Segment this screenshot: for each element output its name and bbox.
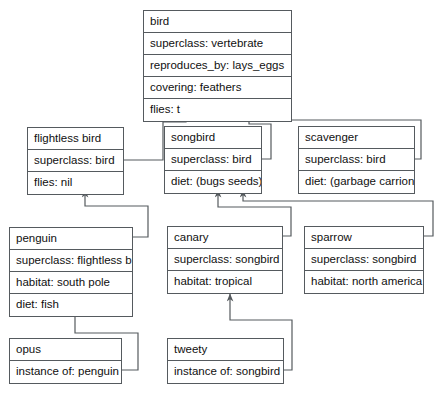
frame-scavenger-slot-diet: diet: (garbage carrion) bbox=[299, 171, 414, 193]
frame-bird[interactable]: bird superclass: vertebrate reproduces_b… bbox=[143, 10, 292, 122]
frame-sparrow[interactable]: sparrow superclass: songbird habitat: no… bbox=[304, 226, 424, 294]
frame-opus-slot-instance-of: instance of: penguin bbox=[10, 361, 121, 383]
frame-scavenger[interactable]: scavenger superclass: bird diet: (garbag… bbox=[298, 126, 415, 194]
frame-flightless-bird-name: flightless bird bbox=[28, 128, 123, 150]
frame-songbird-name: songbird bbox=[165, 127, 261, 149]
frame-sparrow-name: sparrow bbox=[305, 227, 423, 249]
frame-flightless-bird[interactable]: flightless bird superclass: bird flies: … bbox=[27, 127, 124, 195]
frame-songbird-slot-superclass: superclass: bird bbox=[165, 149, 261, 171]
frame-canary[interactable]: canary superclass: songbird habitat: tro… bbox=[167, 226, 283, 294]
frame-canary-slot-superclass: superclass: songbird bbox=[168, 249, 282, 271]
frame-penguin-slot-diet: diet: fish bbox=[10, 294, 132, 316]
frame-canary-name: canary bbox=[168, 227, 282, 249]
frame-penguin-slot-superclass: superclass: flightless bird bbox=[10, 250, 132, 272]
diagram-canvas: bird superclass: vertebrate reproduces_b… bbox=[0, 0, 445, 394]
frame-flightless-bird-slot-superclass: superclass: bird bbox=[28, 150, 123, 172]
frame-sparrow-slot-habitat: habitat: north america bbox=[305, 271, 423, 293]
frame-scavenger-slot-superclass: superclass: bird bbox=[299, 149, 414, 171]
frame-tweety-name: tweety bbox=[168, 339, 283, 361]
frame-songbird-slot-diet: diet: (bugs seeds) bbox=[165, 171, 261, 193]
frame-bird-slot-flies: flies: t bbox=[144, 99, 291, 121]
frame-canary-slot-habitat: habitat: tropical bbox=[168, 271, 282, 293]
frame-opus-name: opus bbox=[10, 339, 121, 361]
frame-songbird[interactable]: songbird superclass: bird diet: (bugs se… bbox=[164, 126, 262, 194]
frame-penguin[interactable]: penguin superclass: flightless bird habi… bbox=[9, 227, 133, 317]
frame-scavenger-name: scavenger bbox=[299, 127, 414, 149]
frame-tweety[interactable]: tweety instance of: songbird bbox=[167, 338, 284, 384]
frame-opus[interactable]: opus instance of: penguin bbox=[9, 338, 122, 384]
frame-bird-slot-reproduces-by: reproduces_by: lays_eggs bbox=[144, 55, 291, 77]
frame-bird-slot-covering: covering: feathers bbox=[144, 77, 291, 99]
frame-tweety-slot-instance-of: instance of: songbird bbox=[168, 361, 283, 383]
frame-bird-name: bird bbox=[144, 11, 291, 33]
frame-penguin-slot-habitat: habitat: south pole bbox=[10, 272, 132, 294]
frame-penguin-name: penguin bbox=[10, 228, 132, 250]
frame-bird-slot-superclass: superclass: vertebrate bbox=[144, 33, 291, 55]
frame-sparrow-slot-superclass: superclass: songbird bbox=[305, 249, 423, 271]
frame-flightless-bird-slot-flies: flies: nil bbox=[28, 172, 123, 194]
